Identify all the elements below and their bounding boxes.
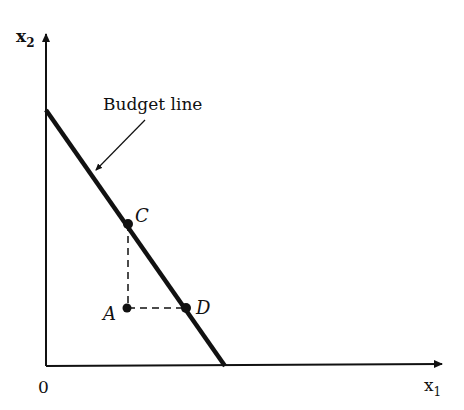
point-d-label: D bbox=[195, 297, 211, 318]
budget-line-label: Budget line bbox=[103, 94, 202, 114]
point-c-label: C bbox=[135, 205, 149, 226]
budget-diagram: x2 x1 0 Budget line C A D bbox=[0, 0, 464, 410]
point-c bbox=[123, 219, 133, 229]
y-axis-label: x2 bbox=[16, 26, 35, 50]
point-a bbox=[123, 304, 132, 313]
x-axis bbox=[46, 364, 442, 366]
point-d bbox=[181, 303, 191, 313]
x-axis-label: x1 bbox=[424, 375, 441, 399]
budget-line-pointer-arrow bbox=[96, 120, 145, 170]
origin-label: 0 bbox=[38, 377, 49, 397]
point-a-label: A bbox=[101, 303, 116, 324]
budget-line bbox=[46, 110, 225, 366]
